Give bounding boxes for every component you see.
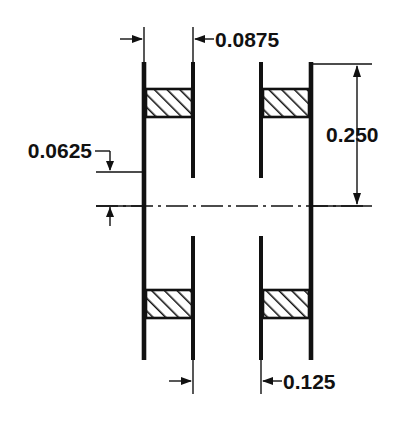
dimension-label-right: 0.250 [326, 123, 379, 146]
engineering-section-drawing: 0.0875 0.250 0.0625 [0, 0, 406, 421]
dimension-label-left: 0.0625 [28, 139, 93, 162]
canvas-background [0, 0, 406, 421]
dimension-label-top: 0.0875 [215, 28, 280, 51]
hatch-region-lower-right [263, 290, 309, 318]
technical-drawing-canvas: 0.0875 0.250 0.0625 [0, 0, 406, 421]
hatch-region-upper-left [146, 89, 192, 117]
hatch-region-upper-right [263, 89, 309, 117]
dimension-label-bottom: 0.125 [283, 370, 336, 393]
hatch-region-lower-left [146, 290, 192, 318]
